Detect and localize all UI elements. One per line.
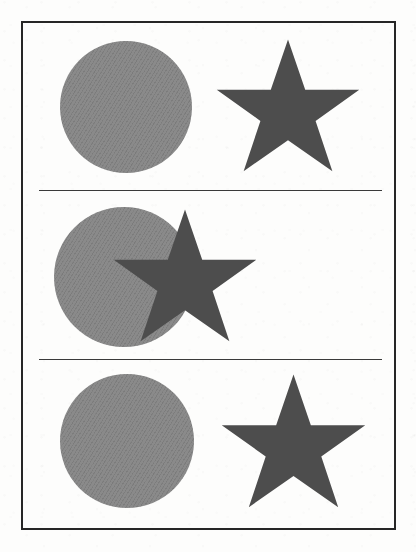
panel-top <box>23 23 394 211</box>
panel-divider-2 <box>39 359 382 360</box>
star-shape-panel-3 <box>220 373 367 511</box>
panel-bottom <box>23 380 394 552</box>
panel-divider-1 <box>39 190 382 191</box>
circle-grain-panel-1 <box>60 41 192 173</box>
star-shape-panel-2 <box>112 208 258 345</box>
figure-frame <box>21 21 396 530</box>
panel-middle <box>23 211 394 380</box>
circle-grain-panel-3 <box>60 374 194 508</box>
circle-shape-panel-3 <box>60 374 194 508</box>
circle-shape-panel-1 <box>60 41 192 173</box>
figure-root <box>0 0 416 552</box>
star-shape-panel-1 <box>215 38 361 175</box>
